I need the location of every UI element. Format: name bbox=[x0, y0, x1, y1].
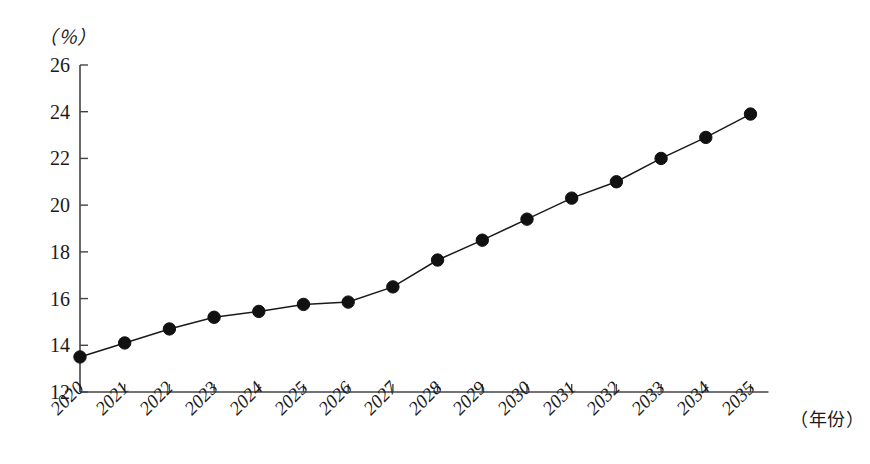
data-point-marker bbox=[342, 296, 354, 308]
data-point-marker bbox=[655, 152, 667, 164]
data-point-marker bbox=[521, 213, 533, 225]
y-axis-tick-label: 24 bbox=[36, 100, 70, 123]
data-point-marker bbox=[566, 192, 578, 204]
data-point-marker bbox=[163, 323, 175, 335]
data-point-marker bbox=[297, 298, 309, 310]
chart-axes bbox=[80, 65, 769, 392]
data-point-marker bbox=[74, 351, 86, 363]
data-point-marker bbox=[610, 176, 622, 188]
x-axis-unit-label: （年份） bbox=[790, 405, 864, 431]
line-chart: （％） （年份） 1214161820222426 20202021202220… bbox=[0, 0, 870, 464]
data-point-marker bbox=[431, 254, 443, 266]
data-point-marker bbox=[208, 311, 220, 323]
y-axis-tick-label: 14 bbox=[36, 334, 70, 357]
y-axis-unit-label: （％） bbox=[38, 22, 97, 49]
y-axis-tick-label: 18 bbox=[36, 240, 70, 263]
y-axis-tick-label: 20 bbox=[36, 194, 70, 217]
data-point-marker bbox=[476, 234, 488, 246]
y-axis-tick-label: 22 bbox=[36, 147, 70, 170]
chart-series bbox=[74, 108, 757, 363]
data-point-marker bbox=[387, 281, 399, 293]
data-point-marker bbox=[744, 108, 756, 120]
y-axis-tick-label: 26 bbox=[36, 54, 70, 77]
y-axis-tick-label: 16 bbox=[36, 287, 70, 310]
data-point-marker bbox=[253, 305, 265, 317]
data-point-marker bbox=[119, 337, 131, 349]
data-point-marker bbox=[700, 131, 712, 143]
